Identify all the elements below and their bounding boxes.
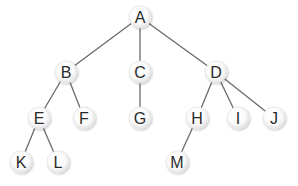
node-label: M [170, 154, 183, 171]
node-label: J [270, 110, 278, 127]
node-label: D [210, 64, 222, 81]
node-label: K [16, 154, 27, 171]
node-label: A [135, 9, 146, 26]
node-label: G [134, 110, 146, 127]
node-label: F [79, 110, 89, 127]
tree-diagram: ABCDEFGHIJKLM [0, 0, 298, 186]
node-h: H [186, 107, 208, 129]
node-l: L [47, 151, 69, 173]
node-g: G [129, 107, 151, 129]
tree-edges [21, 17, 274, 162]
node-label: L [54, 154, 63, 171]
node-j: J [263, 107, 285, 129]
node-label: H [191, 110, 203, 127]
edge-a-b [66, 17, 140, 72]
node-f: F [73, 107, 95, 129]
node-e: E [28, 107, 50, 129]
node-a: A [129, 6, 151, 28]
edge-a-d [140, 17, 216, 72]
node-b: B [55, 61, 77, 83]
node-i: I [227, 107, 249, 129]
node-label: C [134, 64, 146, 81]
node-d: D [205, 61, 227, 83]
node-label: B [61, 64, 72, 81]
node-c: C [129, 61, 151, 83]
node-k: K [10, 151, 32, 173]
node-label: I [236, 110, 240, 127]
node-label: E [34, 110, 45, 127]
node-m: M [166, 151, 188, 173]
